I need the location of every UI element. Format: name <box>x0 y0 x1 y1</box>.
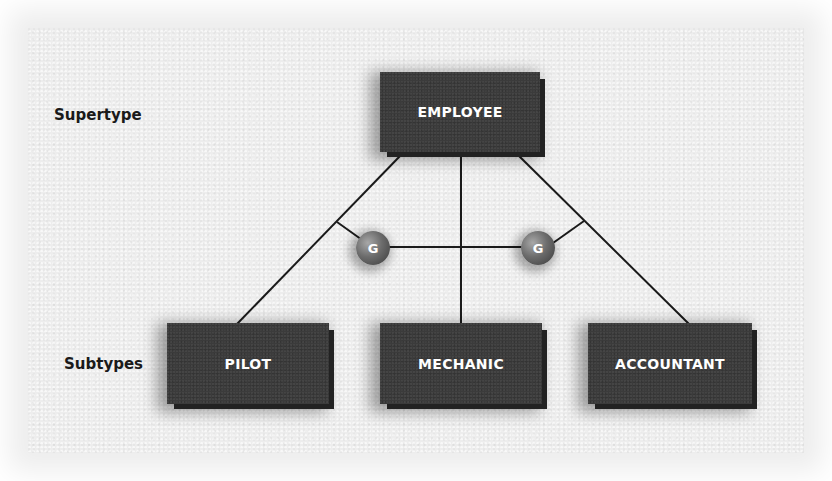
entity-mechanic[interactable]: MECHANIC <box>380 323 542 404</box>
generalization-node-right[interactable]: G <box>521 231 555 265</box>
entity-accountant[interactable]: ACCOUNTANT <box>588 323 752 404</box>
entity-pilot[interactable]: PILOT <box>167 323 329 404</box>
subtypes-label: Subtypes <box>64 355 143 373</box>
line-g-right-arm <box>553 221 584 243</box>
supertype-label: Supertype <box>54 106 142 124</box>
generalization-node-left[interactable]: G <box>356 231 390 265</box>
entity-employee[interactable]: EMPLOYEE <box>380 72 540 152</box>
